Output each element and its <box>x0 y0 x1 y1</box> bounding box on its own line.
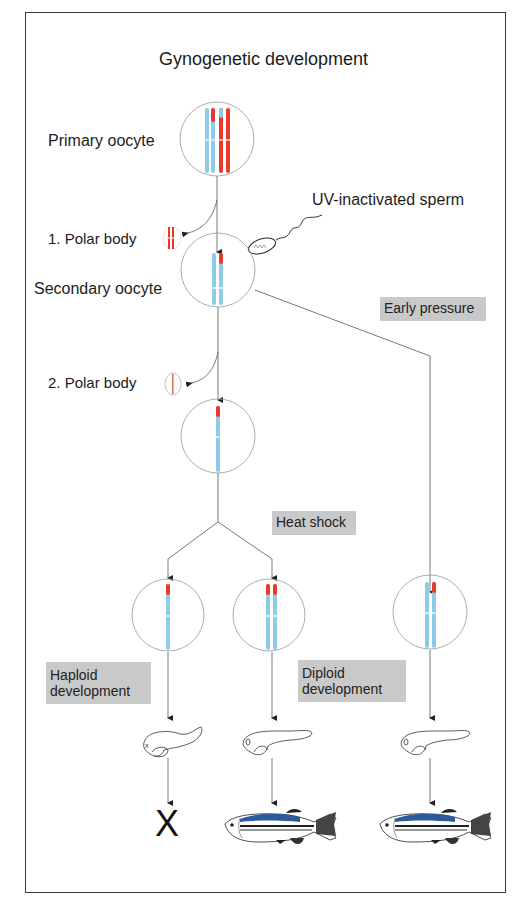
heat-shock-diploid-cell <box>233 579 305 651</box>
label-polar-body-2: 2. Polar body <box>48 375 136 390</box>
polar-body-1 <box>163 227 181 249</box>
diploid-label-line2: development <box>302 681 402 697</box>
label-primary-oocyte: Primary oocyte <box>48 133 155 149</box>
polar-body-2 <box>165 373 181 395</box>
diagram-title: Gynogenetic development <box>0 49 527 70</box>
haploid-cell <box>132 579 204 651</box>
uv-sperm-icon <box>247 215 322 257</box>
heat-shock-box: Heat shock <box>272 511 356 535</box>
diploid-development-box: Diploid development <box>298 660 406 702</box>
haploid-label-line2: development <box>50 683 147 699</box>
zebrafish-icon-diploid <box>225 809 336 844</box>
haploid-lethal-x-mark: X <box>155 806 179 842</box>
early-pressure-label: Early pressure <box>384 300 474 316</box>
label-uv-sperm: UV-inactivated sperm <box>312 192 464 208</box>
haploid-label-line1: Haploid <box>50 667 147 683</box>
haploid-egg-cell <box>181 399 255 473</box>
diploid-label-line1: Diploid <box>302 665 402 681</box>
svg-text:x: x <box>145 742 149 749</box>
label-secondary-oocyte: Secondary oocyte <box>34 281 162 297</box>
pressure-embryo-icon <box>401 731 470 755</box>
zebrafish-icon-pressure <box>380 809 491 844</box>
haploid-embryo-icon: x <box>144 727 202 757</box>
heat-shock-label: Heat shock <box>276 514 346 530</box>
label-polar-body-1: 1. Polar body <box>48 231 136 246</box>
early-pressure-box: Early pressure <box>380 297 486 321</box>
primary-oocyte-cell <box>180 102 254 176</box>
diploid-embryo-icon <box>243 731 312 755</box>
haploid-development-box: Haploid development <box>46 662 151 704</box>
secondary-oocyte-cell <box>181 233 255 307</box>
